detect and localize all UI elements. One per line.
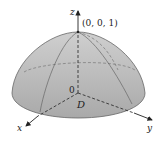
origin-label: 0 <box>69 85 75 95</box>
z-axis-label: z <box>69 7 75 17</box>
y-axis-label: y <box>146 123 153 133</box>
region-label: D <box>76 99 85 110</box>
apex-point <box>77 31 80 34</box>
x-axis-label: x <box>17 123 22 133</box>
y-axis <box>134 113 152 120</box>
paraboloid-diagram: z (0, 0, 1) 0 D x y <box>0 0 164 143</box>
x-axis <box>26 116 38 126</box>
apex-label: (0, 0, 1) <box>82 18 118 28</box>
